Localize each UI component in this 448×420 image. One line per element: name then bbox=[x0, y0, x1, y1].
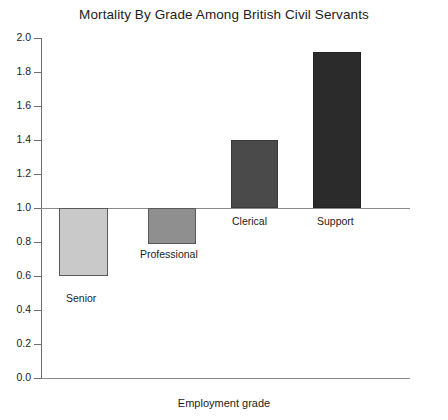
y-tick-mark-9 bbox=[34, 72, 41, 73]
bar-label-support: Support bbox=[317, 216, 354, 227]
y-tick-label-wrap-5: 1.0 bbox=[0, 202, 31, 214]
y-tick-label-wrap-10: 2.0 bbox=[0, 32, 31, 44]
y-tick-label-2: 0.4 bbox=[1, 304, 31, 315]
y-tick-mark-8 bbox=[34, 106, 41, 107]
y-tick-mark-4 bbox=[34, 242, 41, 243]
y-tick-label-wrap-2: 0.4 bbox=[0, 304, 31, 316]
y-tick-label-wrap-0: 0.0 bbox=[0, 372, 31, 384]
bar-chart: Mortality By Grade Among British Civil S… bbox=[0, 0, 448, 420]
y-tick-label-4: 0.8 bbox=[1, 236, 31, 247]
y-tick-mark-3 bbox=[34, 276, 41, 277]
y-tick-label-wrap-7: 1.4 bbox=[0, 134, 31, 146]
y-tick-label-wrap-9: 1.8 bbox=[0, 66, 31, 78]
x-axis-title: Employment grade bbox=[0, 397, 448, 409]
chart-title: Mortality By Grade Among British Civil S… bbox=[0, 7, 448, 22]
y-tick-mark-2 bbox=[34, 310, 41, 311]
y-tick-label-8: 1.6 bbox=[1, 100, 31, 111]
bar-senior[interactable] bbox=[59, 208, 108, 276]
y-tick-label-wrap-8: 1.6 bbox=[0, 100, 31, 112]
y-tick-mark-0 bbox=[34, 378, 41, 379]
y-tick-label-5: 1.0 bbox=[1, 202, 31, 213]
y-tick-mark-7 bbox=[34, 140, 41, 141]
y-tick-mark-6 bbox=[34, 174, 41, 175]
bar-label-professional: Professional bbox=[140, 249, 198, 260]
y-tick-mark-10 bbox=[34, 38, 41, 39]
y-tick-mark-1 bbox=[34, 344, 41, 345]
y-tick-label-6: 1.2 bbox=[1, 168, 31, 179]
bar-label-clerical: Clerical bbox=[232, 216, 267, 227]
y-tick-label-3: 0.6 bbox=[1, 270, 31, 281]
y-tick-label-wrap-1: 0.2 bbox=[0, 338, 31, 350]
y-tick-mark-5 bbox=[34, 208, 41, 209]
y-tick-label-7: 1.4 bbox=[1, 134, 31, 145]
x-axis-line bbox=[41, 378, 410, 379]
y-tick-label-wrap-6: 1.2 bbox=[0, 168, 31, 180]
y-tick-label-wrap-4: 0.8 bbox=[0, 236, 31, 248]
bar-support[interactable] bbox=[313, 52, 361, 208]
bar-clerical[interactable] bbox=[231, 140, 278, 208]
bar-professional[interactable] bbox=[148, 208, 196, 244]
y-tick-label-1: 0.2 bbox=[1, 338, 31, 349]
bar-label-senior: Senior bbox=[66, 293, 96, 304]
y-tick-label-10: 2.0 bbox=[1, 32, 31, 43]
y-tick-label-9: 1.8 bbox=[1, 66, 31, 77]
y-tick-label-0: 0.0 bbox=[1, 372, 31, 383]
y-tick-label-wrap-3: 0.6 bbox=[0, 270, 31, 282]
